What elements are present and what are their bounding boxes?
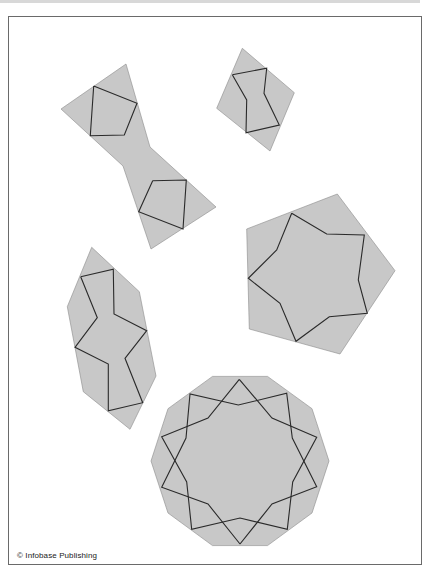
decagon-tile (151, 376, 329, 545)
rhombus-tile (217, 48, 295, 151)
pentagon-tile (247, 194, 395, 354)
bowtie-tile (61, 64, 216, 249)
copyright-credit: © Infobase Publishing (17, 551, 97, 560)
tiles-diagram (0, 0, 438, 584)
hexagon-tile (67, 247, 156, 429)
